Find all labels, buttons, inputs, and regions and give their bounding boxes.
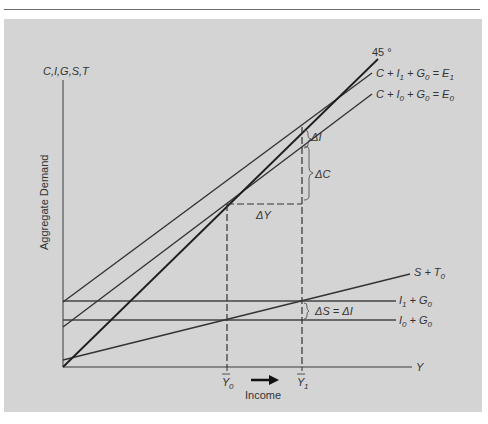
delta-y-label: ΔY bbox=[255, 209, 271, 221]
s-t0-label: S + T0 bbox=[414, 266, 446, 281]
keynesian-cross-diagram: C,I,G,S,T Aggregate Demand Y Income Y 0 … bbox=[0, 0, 488, 424]
e1-line bbox=[63, 73, 372, 302]
e0-line bbox=[63, 94, 372, 327]
delta-i-label: ΔI bbox=[310, 131, 321, 143]
y1-tick-label: Y 1 bbox=[297, 374, 308, 391]
delta-s-eq-delta-i-label: ΔS = ΔI bbox=[314, 305, 353, 317]
e0-label: C + I0 + G0 = E0 bbox=[376, 88, 454, 103]
delta-c-brace bbox=[304, 146, 313, 200]
svg-text:0: 0 bbox=[229, 382, 234, 391]
y-axis-label: C,I,G,S,T bbox=[43, 65, 90, 77]
delta-s-brace bbox=[304, 303, 309, 319]
i0-g0-label: I0 + G0 bbox=[399, 314, 433, 329]
x-axis-title: Income bbox=[245, 389, 281, 401]
delta-c-label: ΔC bbox=[314, 168, 330, 180]
i1-g0-label: I1 + G0 bbox=[399, 294, 433, 309]
arrow-right-icon bbox=[251, 375, 279, 385]
svg-text:1: 1 bbox=[304, 382, 308, 391]
e1-label: C + I1 + G0 = E1 bbox=[376, 67, 454, 82]
forty-five-label: 45 ° bbox=[372, 46, 392, 58]
x-axis-label: Y bbox=[416, 361, 424, 373]
y-axis-title: Aggregate Demand bbox=[38, 155, 50, 250]
y0-tick-label: Y 0 bbox=[222, 374, 234, 391]
